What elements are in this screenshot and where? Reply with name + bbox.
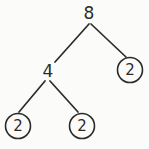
node-prime-left-label: 2 (13, 117, 23, 135)
node-prime-right-label: 2 (125, 61, 135, 79)
edge-4-to-prime-left (19, 81, 45, 112)
node-root: 8 (84, 3, 95, 23)
factor-tree-canvas: 8 4 2 2 2 (0, 0, 149, 149)
node-prime-right: 2 (118, 58, 143, 83)
edge-4-to-prime-middle (50, 81, 78, 112)
node-prime-middle: 2 (70, 114, 95, 139)
edge-root-to-4 (55, 24, 89, 62)
node-branch-4: 4 (43, 61, 54, 81)
node-prime-left: 2 (6, 114, 31, 139)
node-branch-4-label: 4 (43, 61, 54, 81)
edge-root-to-prime (91, 24, 126, 57)
factor-tree-diagram: 8 4 2 2 2 (0, 0, 149, 149)
node-prime-middle-label: 2 (77, 117, 87, 135)
branch-lines (19, 24, 126, 112)
node-root-label: 8 (84, 3, 95, 23)
